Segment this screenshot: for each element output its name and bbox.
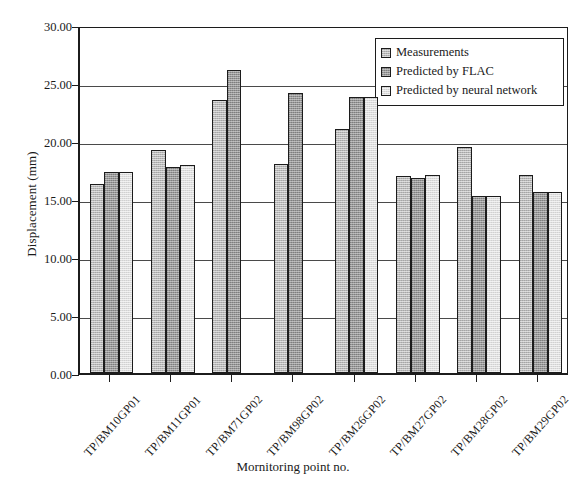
x-tick-label: TP/BM98GP02 bbox=[264, 392, 327, 460]
x-tick-mark bbox=[231, 375, 232, 382]
y-tick-label: 30.00 bbox=[2, 21, 72, 34]
y-tick-label: 25.00 bbox=[2, 79, 72, 92]
bar bbox=[349, 97, 364, 373]
bar bbox=[457, 147, 472, 373]
x-tick-label: TP/BM29GP02 bbox=[509, 392, 572, 460]
x-tick-label: TP/BM26GP02 bbox=[326, 392, 389, 460]
bar bbox=[180, 165, 195, 373]
bar bbox=[104, 172, 119, 373]
x-tick-label: TP/BM10GP01 bbox=[81, 392, 144, 460]
bar bbox=[335, 129, 350, 373]
chart-legend: Measurements Predicted by FLAC Predicted… bbox=[375, 38, 564, 106]
x-tick-mark bbox=[537, 375, 538, 382]
bar bbox=[119, 172, 134, 373]
legend-item[interactable]: Measurements bbox=[381, 43, 558, 62]
y-tick-mark bbox=[72, 375, 79, 376]
bar bbox=[425, 175, 440, 373]
bar bbox=[533, 192, 548, 373]
x-tick-label: TP/BM71GP02 bbox=[203, 392, 266, 460]
bar bbox=[519, 175, 534, 373]
bar bbox=[90, 184, 105, 373]
legend-item[interactable]: Predicted by FLAC bbox=[381, 62, 558, 81]
bar bbox=[486, 196, 501, 373]
bar bbox=[288, 93, 303, 373]
bar bbox=[364, 97, 379, 373]
x-tick-label: TP/BM27GP02 bbox=[387, 392, 450, 460]
bar bbox=[472, 196, 487, 373]
y-tick-label: 15.00 bbox=[2, 195, 72, 208]
y-tick-label: 5.00 bbox=[2, 311, 72, 324]
y-tick-label: 0.00 bbox=[2, 369, 72, 382]
bar bbox=[396, 176, 411, 373]
x-tick-label: TP/BM28GP02 bbox=[448, 392, 511, 460]
x-tick-mark bbox=[170, 375, 171, 382]
y-tick-label: 20.00 bbox=[2, 137, 72, 150]
x-axis-title: Mornitoring point no. bbox=[0, 459, 586, 475]
bar-chart-figure: Displacement (mm) 0.005.0010.0015.0020.0… bbox=[0, 0, 586, 493]
bar bbox=[227, 70, 242, 373]
x-tick-label: TP/BM11GP01 bbox=[142, 393, 205, 460]
legend-swatch-measurements bbox=[381, 48, 391, 58]
bar bbox=[274, 164, 289, 373]
x-tick-mark bbox=[476, 375, 477, 382]
legend-label: Predicted by neural network bbox=[396, 84, 537, 97]
x-tick-mark bbox=[354, 375, 355, 382]
bar bbox=[212, 100, 227, 373]
bar bbox=[166, 167, 181, 373]
legend-label: Predicted by FLAC bbox=[396, 65, 494, 78]
x-tick-mark bbox=[109, 375, 110, 382]
gridline bbox=[80, 144, 567, 145]
y-tick-label: 10.00 bbox=[2, 253, 72, 266]
x-tick-mark bbox=[292, 375, 293, 382]
legend-item[interactable]: Predicted by neural network bbox=[381, 81, 558, 100]
bar bbox=[411, 178, 426, 373]
bar bbox=[151, 150, 166, 373]
legend-label: Measurements bbox=[396, 46, 469, 59]
bar bbox=[548, 192, 563, 373]
legend-swatch-flac bbox=[381, 67, 391, 77]
legend-swatch-neural-network bbox=[381, 86, 391, 96]
x-tick-mark bbox=[415, 375, 416, 382]
